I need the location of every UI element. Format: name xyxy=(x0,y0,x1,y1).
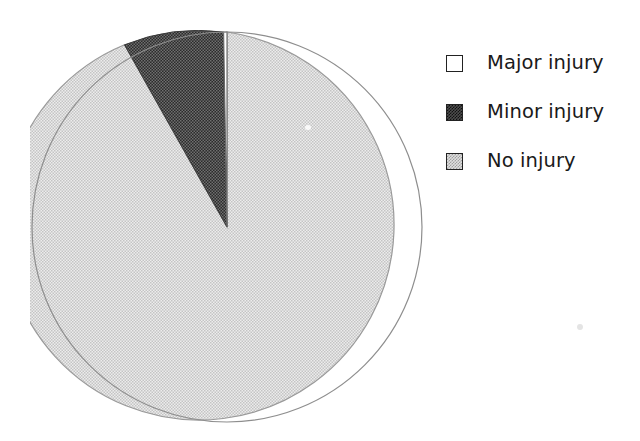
legend-swatch-light-icon xyxy=(446,153,463,170)
pie-chart-figure: Major injury Minor injury No injury xyxy=(0,0,640,441)
legend-swatch-white-icon xyxy=(446,55,463,72)
legend-item-major-injury[interactable]: Major injury xyxy=(446,50,632,76)
legend-swatch-dark-icon xyxy=(446,104,463,121)
legend: Major injury Minor injury No injury xyxy=(446,50,632,197)
legend-item-minor-injury[interactable]: Minor injury xyxy=(446,99,632,125)
legend-label-minor-injury: Minor injury xyxy=(487,102,604,122)
legend-item-no-injury[interactable]: No injury xyxy=(446,148,632,174)
legend-label-major-injury: Major injury xyxy=(487,53,604,73)
legend-label-no-injury: No injury xyxy=(487,151,576,171)
scan-artifact-speck xyxy=(577,324,583,330)
pie-svg xyxy=(30,30,424,424)
pie-chart-plot-area xyxy=(30,30,424,424)
